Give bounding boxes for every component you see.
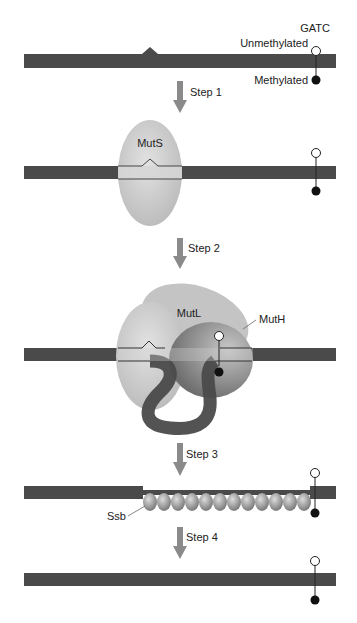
muts-label: MutS (137, 137, 163, 149)
unmethylated-gatc-icon (311, 469, 320, 478)
step-1-arrow: Step 1 (173, 81, 222, 113)
step-2-arrow: Step 2 (173, 238, 220, 269)
gatc-label: GATC (300, 22, 330, 34)
down-arrow-icon (173, 462, 187, 476)
ssb-beads (143, 493, 311, 511)
methylated-label: Methylated (254, 74, 308, 86)
mismatch-repair-diagram: GATC Unmethylated Methylated Step 1 MutS… (0, 0, 357, 623)
panel-muts: MutS (24, 120, 336, 226)
unmethylated-gatc-icon (312, 149, 321, 158)
dna-duplex (24, 54, 336, 68)
step-1-label: Step 1 (190, 86, 222, 98)
panel-repaired (24, 557, 336, 605)
step-2-label: Step 2 (188, 242, 220, 254)
dna-duplex (24, 573, 336, 586)
down-arrow-icon (173, 256, 187, 269)
methylated-gatc-icon (312, 187, 321, 196)
panel-initial: GATC Unmethylated Methylated (24, 22, 336, 86)
panel-complex: MutL MutH (24, 271, 336, 429)
single-strand (143, 490, 310, 495)
step-4-arrow: Step 4 (173, 527, 218, 559)
muth-label: MutH (259, 313, 285, 325)
panel-ssb: Ssb (24, 469, 336, 523)
down-arrow-icon (173, 546, 187, 559)
dna-duplex-right (310, 486, 336, 499)
mutl-label: MutL (177, 307, 201, 319)
step-4-label: Step 4 (186, 531, 218, 543)
down-arrow-icon (173, 100, 187, 113)
unmethylated-gatc-icon (311, 557, 320, 566)
unmethylated-label: Unmethylated (240, 37, 308, 49)
unmethylated-gatc-icon (312, 47, 321, 56)
mismatch-bump (142, 47, 158, 54)
step-3-arrow: Step 3 (173, 443, 218, 476)
methylated-gatc-icon (312, 76, 321, 85)
ssb-label: Ssb (107, 510, 126, 522)
methylated-gatc-icon (215, 368, 224, 377)
methylated-gatc-icon (311, 509, 320, 518)
step-3-label: Step 3 (186, 448, 218, 460)
dna-duplex-left (24, 486, 143, 499)
methylated-gatc-icon (311, 596, 320, 605)
unmethylated-gatc-icon (215, 332, 224, 341)
